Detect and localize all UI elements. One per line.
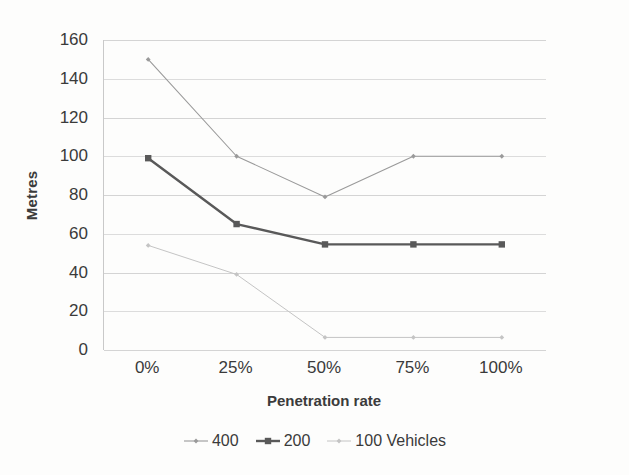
data-point	[323, 195, 328, 200]
series-line	[148, 158, 502, 244]
legend-label: 100 Vehicles	[355, 432, 446, 450]
data-point	[411, 154, 416, 159]
series-400	[146, 57, 504, 199]
y-axis-tick-label: 80	[69, 185, 88, 205]
x-axis-tick-label: 0%	[135, 358, 160, 378]
y-axis-tick-label: 0	[79, 340, 88, 360]
data-point	[499, 241, 505, 247]
data-point	[410, 241, 416, 247]
x-axis-tick-label: 75%	[395, 358, 429, 378]
legend-marker-icon	[255, 434, 281, 448]
series-100-vehicles	[146, 243, 504, 340]
legend-item-100-vehicles[interactable]: 100 Vehicles	[326, 432, 446, 450]
data-point	[233, 221, 239, 227]
x-axis-tick-label: 25%	[219, 358, 253, 378]
y-axis-title-label: Metres	[24, 170, 41, 220]
y-axis-tick-label: 20	[69, 301, 88, 321]
x-axis-tick-label: 50%	[307, 358, 341, 378]
legend-marker-icon	[183, 434, 209, 448]
plot-area	[103, 40, 546, 350]
gridline	[104, 350, 546, 351]
y-axis-tick-label: 40	[69, 263, 88, 283]
legend-label: 400	[212, 432, 239, 450]
series-line	[148, 245, 502, 337]
data-point	[146, 243, 151, 248]
legend-item-200[interactable]: 200	[255, 432, 311, 450]
x-axis-title: Penetration rate	[103, 392, 545, 409]
y-axis-tick-label: 100	[60, 146, 88, 166]
legend-label: 200	[284, 432, 311, 450]
legend-marker-icon	[326, 434, 352, 448]
legend-item-400[interactable]: 400	[183, 432, 239, 450]
data-point	[499, 335, 504, 340]
y-axis-tick-label: 160	[60, 30, 88, 50]
y-axis-tick-label: 140	[60, 69, 88, 89]
x-axis-tick-label: 100%	[479, 358, 522, 378]
series-200	[145, 155, 505, 248]
series-line	[148, 59, 502, 197]
y-axis-tick-labels: 020406080100120140160	[44, 40, 96, 350]
series-layer	[104, 40, 546, 350]
data-point	[322, 241, 328, 247]
y-axis-tick-label: 60	[69, 224, 88, 244]
line-chart: Metres 020406080100120140160 0%25%50%75%…	[0, 0, 629, 475]
y-axis-tick-label: 120	[60, 108, 88, 128]
chart-legend: 400200100 Vehicles	[0, 432, 629, 450]
data-point	[145, 155, 151, 161]
data-point	[499, 154, 504, 159]
x-axis-tick-labels: 0%25%50%75%100%	[103, 358, 545, 388]
data-point	[411, 335, 416, 340]
